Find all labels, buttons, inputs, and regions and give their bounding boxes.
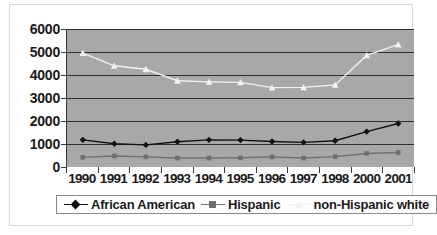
- data-point-marker: [395, 41, 402, 47]
- data-point-marker: [206, 137, 212, 143]
- y-axis-tick-label: 4000: [30, 68, 60, 82]
- data-point-marker: [333, 154, 338, 159]
- data-point-marker: [364, 151, 369, 156]
- series-african-american: [80, 120, 402, 148]
- x-axis-tick-label: 2001: [382, 172, 414, 187]
- x-axis-tick-label: 1991: [98, 172, 130, 187]
- x-tick-labels: 1990199119921993199419951996199719982000…: [66, 172, 414, 187]
- data-point-marker: [238, 156, 243, 161]
- legend-swatch: [64, 200, 88, 210]
- legend-entry-african-american[interactable]: African American: [64, 197, 195, 212]
- legend-marker-square-icon: [209, 201, 216, 208]
- x-axis-tick-label: 1997: [287, 172, 319, 187]
- y-axis: 6000500040003000200010000: [9, 29, 66, 167]
- legend-marker-triangle-icon: [295, 201, 303, 208]
- legend-entry-hispanic[interactable]: Hispanic: [201, 197, 281, 212]
- series-lines-layer: [67, 29, 414, 167]
- legend-label: non-Hispanic white: [314, 197, 430, 212]
- x-axis-tick-mark: [414, 167, 415, 173]
- y-axis-tick-label: 0: [52, 160, 60, 174]
- data-point-marker: [270, 155, 275, 160]
- data-point-marker: [111, 141, 117, 147]
- series-non-hispanic-white: [79, 41, 401, 90]
- chart-legend: African AmericanHispanicnon-Hispanic whi…: [56, 195, 437, 214]
- legend-entry-non-hispanic-white[interactable]: non-Hispanic white: [287, 197, 430, 212]
- legend-marker-diamond-icon: [71, 199, 81, 209]
- data-point-marker: [237, 137, 243, 143]
- x-axis-tick-label: 1996: [256, 172, 288, 187]
- y-axis-tick-label: 2000: [30, 114, 60, 128]
- data-point-marker: [395, 120, 401, 126]
- x-axis-tick-label: 1993: [161, 172, 193, 187]
- legend-swatch: [287, 200, 311, 210]
- data-point-marker: [175, 156, 180, 161]
- data-point-marker: [80, 155, 85, 160]
- series-hispanic: [80, 150, 400, 160]
- y-axis-tick-label: 5000: [30, 45, 60, 59]
- data-point-marker: [80, 137, 86, 143]
- data-point-marker: [79, 50, 86, 56]
- legend-swatch: [201, 200, 225, 210]
- data-point-marker: [174, 139, 180, 145]
- data-point-marker: [143, 142, 149, 148]
- data-point-marker: [207, 156, 212, 161]
- data-point-marker: [300, 139, 306, 145]
- x-axis-tick-label: 1995: [224, 172, 256, 187]
- y-axis-tick-label: 1000: [30, 137, 60, 151]
- plot-area: [66, 29, 414, 167]
- data-point-marker: [363, 128, 369, 134]
- y-axis-tick-label: 6000: [30, 22, 60, 36]
- y-axis-tick-label: 3000: [30, 91, 60, 105]
- legend-label: African American: [91, 197, 195, 212]
- legend-label: Hispanic: [228, 197, 281, 212]
- x-axis-tick-label: 1998: [319, 172, 351, 187]
- x-axis-tick-label: 1994: [193, 172, 225, 187]
- data-point-marker: [269, 138, 275, 144]
- x-axis-tick-label: 2000: [351, 172, 383, 187]
- data-point-marker: [144, 155, 149, 160]
- data-point-marker: [332, 138, 338, 144]
- x-axis: 1990199119921993199419951996199719982000…: [66, 167, 414, 193]
- data-point-marker: [112, 154, 117, 159]
- data-point-marker: [396, 150, 401, 155]
- x-axis-tick-label: 1992: [129, 172, 161, 187]
- x-axis-tick-label: 1990: [66, 172, 98, 187]
- data-point-marker: [301, 156, 306, 161]
